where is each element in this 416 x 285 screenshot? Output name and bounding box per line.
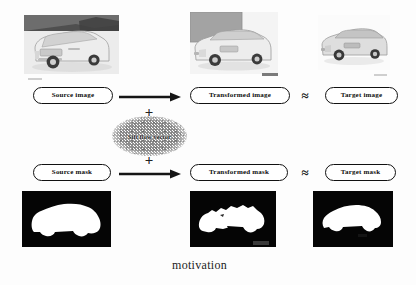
target-mask-image [313, 191, 393, 247]
figure-caption: motivation [172, 258, 227, 273]
source-mask-image [22, 191, 111, 247]
transformed-image-label-text: Transformed image [209, 92, 271, 99]
transformed-image-label[interactable]: Transformed image [190, 87, 290, 104]
transformed-image-tickmark [262, 73, 278, 76]
mask-row-arrow [118, 169, 182, 179]
target-image-label-text: Target image [341, 92, 383, 99]
sift-flow-vector-ellipse: Sift flow vector [112, 116, 187, 156]
transformed-image-photo [190, 12, 278, 74]
sift-flow-vector-label: Sift flow vector [128, 133, 171, 140]
source-image-label[interactable]: Source image [33, 87, 113, 104]
image-row-approx-symbol: ≈ [297, 89, 313, 102]
source-mask-label-text: Source mask [52, 169, 92, 176]
source-image-label-text: Source image [52, 92, 95, 99]
target-mask-label-text: Target mask [341, 169, 380, 176]
transformed-mask-label[interactable]: Transformed mask [190, 164, 288, 181]
mask-row-approx-symbol: ≈ [297, 166, 313, 179]
source-mask-label[interactable]: Source mask [33, 164, 111, 181]
image-row-arrow [118, 92, 182, 102]
transformed-mask-image [190, 191, 276, 247]
target-image-photo [318, 15, 390, 70]
figure-canvas: Source image Transformed image ≈ Target … [0, 0, 416, 285]
source-image-tickmark [28, 78, 42, 80]
transformed-mask-label-text: Transformed mask [209, 169, 269, 176]
source-image-photo [24, 15, 119, 74]
target-image-label[interactable]: Target image [325, 87, 398, 104]
mask-row-plus-symbol: + [142, 153, 156, 168]
target-mask-label[interactable]: Target mask [325, 164, 396, 181]
target-image-tickmark [374, 74, 387, 76]
